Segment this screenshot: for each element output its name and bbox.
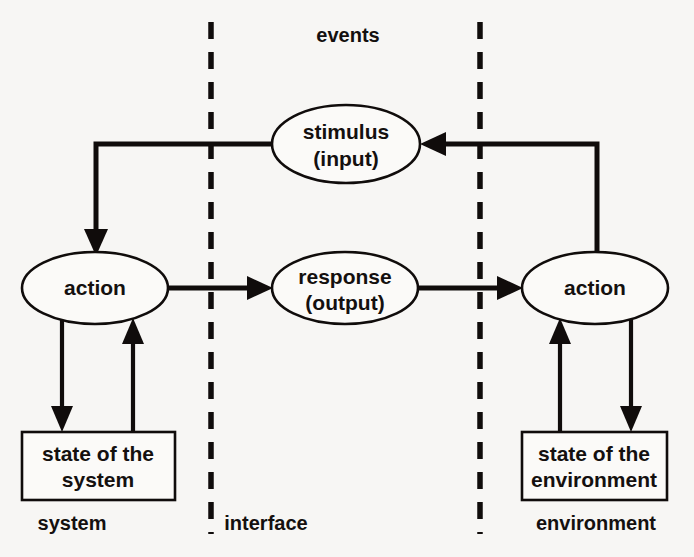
node-action-system[interactable]: action bbox=[22, 252, 168, 324]
edge-state-system-to-action-left bbox=[122, 318, 144, 432]
state-system-label-line1: state of the bbox=[42, 442, 154, 465]
edge-response-to-action-right bbox=[418, 276, 523, 300]
diagram-svg: stimulus (input) response (output) actio… bbox=[0, 0, 694, 557]
state-environment-label-line1: state of the bbox=[538, 442, 650, 465]
edge-stimulus-to-action-left bbox=[84, 144, 272, 256]
stimulus-ellipse bbox=[272, 105, 420, 183]
zone-label-interface: interface bbox=[224, 512, 307, 534]
response-label-line2: (output) bbox=[305, 291, 384, 314]
node-state-of-the-environment[interactable]: state of the environment bbox=[522, 432, 667, 500]
events-label: events bbox=[316, 24, 379, 46]
node-state-of-the-system[interactable]: state of the system bbox=[22, 432, 175, 500]
edge-action-left-to-state-system bbox=[51, 318, 73, 432]
node-action-environment[interactable]: action bbox=[522, 252, 668, 324]
action-right-label: action bbox=[564, 276, 626, 299]
edge-state-environment-to-action-right bbox=[549, 318, 571, 432]
zone-label-environment: environment bbox=[536, 512, 656, 534]
zone-label-system: system bbox=[38, 512, 107, 534]
action-left-label: action bbox=[64, 276, 126, 299]
response-label-line1: response bbox=[298, 265, 391, 288]
state-environment-label-line2: environment bbox=[531, 468, 657, 491]
state-system-label-line2: system bbox=[62, 468, 134, 491]
node-response[interactable]: response (output) bbox=[272, 252, 418, 324]
edge-action-left-to-response bbox=[168, 276, 273, 300]
node-stimulus[interactable]: stimulus (input) bbox=[272, 105, 420, 183]
stimulus-label-line1: stimulus bbox=[303, 120, 389, 143]
edge-action-right-to-state-environment bbox=[620, 318, 642, 432]
edge-action-right-to-stimulus bbox=[420, 132, 597, 253]
stimulus-label-line2: (input) bbox=[313, 147, 378, 170]
diagram-canvas: stimulus (input) response (output) actio… bbox=[0, 0, 694, 557]
